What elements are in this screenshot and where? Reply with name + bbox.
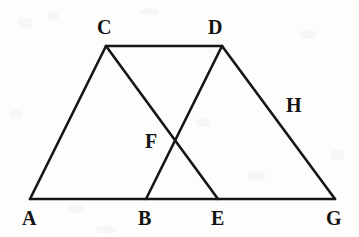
segment-layer — [30, 46, 335, 199]
point-label-g: G — [326, 208, 342, 228]
point-label-e: E — [211, 208, 224, 228]
point-label-d: D — [208, 17, 222, 37]
figure-line-art — [0, 0, 359, 237]
geometry-figure: ABEGCDFH — [0, 0, 359, 237]
cevian-c-e — [106, 46, 218, 199]
point-label-b: B — [138, 208, 151, 228]
right-side-d-g — [222, 46, 335, 199]
point-label-f: F — [145, 131, 157, 151]
cevian-d-b — [146, 46, 222, 199]
left-side-a-c — [30, 46, 106, 199]
point-label-c: C — [97, 17, 111, 37]
point-label-a: A — [22, 208, 36, 228]
segment-label-h: H — [286, 95, 302, 115]
